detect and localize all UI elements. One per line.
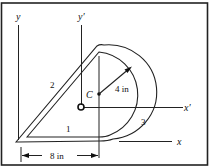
x-prime-axis-label: x′ — [183, 102, 191, 113]
segment-label-3: 3 — [141, 117, 146, 127]
dim-arrow-left — [22, 153, 29, 158]
y-prime-axis-label: y′ — [77, 11, 85, 22]
centroid-label: C — [86, 89, 93, 100]
y-axis-label: y — [15, 11, 21, 22]
x-axis-label: x — [176, 136, 182, 147]
composite-wire-figure: y y′ x x′ C 4 in 8 in 1 2 3 — [0, 0, 211, 167]
segment-label-1: 1 — [66, 124, 71, 134]
wire-inner-edge — [27, 52, 138, 137]
dim-arrow-right — [91, 153, 98, 158]
width-label: 8 in — [50, 151, 64, 161]
segment-label-2: 2 — [50, 80, 55, 90]
radius-label: 4 in — [115, 84, 129, 94]
